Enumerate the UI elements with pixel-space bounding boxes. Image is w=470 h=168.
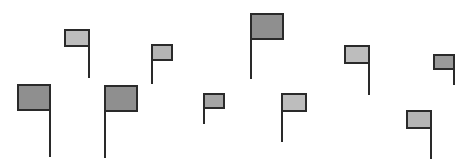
flag-8 [345,46,369,95]
flags-diagram [0,0,470,168]
flag-banner [251,14,283,39]
flag-banner [18,85,50,110]
flag-7 [282,94,306,142]
flag-banner [152,45,172,60]
flag-banner [65,30,89,46]
flag-6 [251,14,283,79]
flag-9 [434,55,454,85]
flag-1 [18,85,50,157]
flag-banner [434,55,454,69]
flag-banner [204,94,224,108]
flag-10 [407,111,431,159]
flag-banner [345,46,369,63]
flag-3 [105,86,137,158]
flag-4 [152,45,172,84]
flag-5 [204,94,224,124]
flag-2 [65,30,89,78]
flag-banner [407,111,431,128]
flag-banner [105,86,137,111]
flag-banner [282,94,306,111]
